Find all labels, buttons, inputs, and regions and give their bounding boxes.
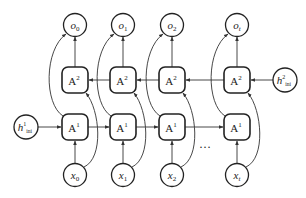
input-sub: 2	[173, 175, 177, 183]
input-node-2: x2	[161, 164, 184, 187]
cell-sup: 2	[124, 74, 128, 82]
input-node-0: x0	[64, 164, 87, 187]
layer2-cell-0: A2	[62, 67, 88, 93]
input-node-t: xt	[226, 164, 249, 187]
cell-base: A	[116, 122, 124, 134]
cell-base: A	[68, 75, 76, 87]
cell-base: A	[165, 75, 173, 87]
layer1-cell-2: A1	[159, 114, 185, 140]
output-sub: 1	[124, 25, 128, 33]
init-state-layer2: h2ini	[273, 68, 297, 92]
output-node-2: o2	[161, 14, 184, 37]
output-node-0: o0	[64, 14, 87, 37]
output-sub: 2	[173, 25, 177, 33]
ellipsis: …	[199, 137, 211, 151]
layer1-cell-0: A1	[62, 114, 88, 140]
cell-base: A	[116, 75, 124, 87]
layer2-cell-1: A2	[110, 67, 136, 93]
init-sup: 2	[282, 74, 285, 80]
cell-base: A	[230, 122, 238, 134]
cell-base: A	[68, 122, 76, 134]
cell-sup: 2	[238, 74, 242, 82]
layer2-cell-2: A2	[159, 67, 185, 93]
cell-sup: 2	[173, 74, 177, 82]
output-sub: 0	[76, 25, 80, 33]
input-node-1: x1	[112, 164, 135, 187]
layer1-cell-t: A1	[224, 114, 250, 140]
init-state-layer1: h1ini	[14, 115, 38, 139]
input-sub: 0	[76, 175, 80, 183]
layer2-cell-t: A2	[224, 67, 250, 93]
input-row: x0 x1 x2 xt	[64, 164, 249, 187]
edges	[38, 34, 273, 167]
input-sub: 1	[124, 175, 128, 183]
output-node-t: ot	[226, 14, 249, 37]
init-sup: 1	[23, 121, 26, 127]
output-row: o0 o1 o2 ot	[64, 14, 249, 37]
cell-sup: 1	[238, 121, 242, 129]
init-sub: ini	[285, 81, 291, 87]
output-node-1: o1	[112, 14, 135, 37]
cell-sup: 1	[124, 121, 128, 129]
cell-sup: 1	[173, 121, 177, 129]
layer1-cell-1: A1	[110, 114, 136, 140]
cell-base: A	[165, 122, 173, 134]
cell-sup: 1	[76, 121, 80, 129]
cell-base: A	[230, 75, 238, 87]
cell-sup: 2	[76, 74, 80, 82]
birnn-diagram: o0 o1 o2 ot A2 A2 A2 A2	[0, 0, 306, 198]
init-sub: ini	[26, 128, 32, 134]
